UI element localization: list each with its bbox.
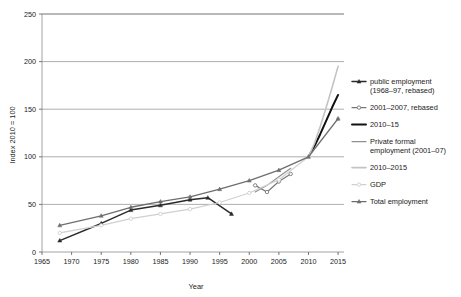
x-tick-label-1990: 1990: [182, 257, 198, 266]
axes-frame: [42, 14, 344, 252]
grid-lines: [42, 14, 344, 204]
legend-item-0[interactable]: public employment(1968–97, rebased): [352, 77, 435, 95]
legend-label-2: 2010–15: [370, 120, 399, 129]
series-1: [253, 172, 292, 193]
x-axis-tick-labels: 1965197019751980198519901995200020052010…: [34, 257, 346, 266]
x-tick-label-2010: 2010: [300, 257, 316, 266]
x-tick-label-1970: 1970: [64, 257, 80, 266]
series-line-4: [308, 66, 338, 156]
y-tick-label-100: 100: [24, 152, 36, 161]
legend-label-6: Total employment: [370, 197, 428, 206]
series-point-5-1: [100, 224, 103, 227]
y-tick-label-50: 50: [28, 200, 36, 209]
series-point-5-3: [159, 212, 162, 215]
legend-label-5: GDP: [370, 180, 386, 189]
series-point-1-3: [289, 172, 292, 175]
y-axis-ticks: [39, 14, 42, 252]
series-point-5-0: [58, 231, 61, 234]
x-tick-label-1975: 1975: [93, 257, 109, 266]
legend-marker-5: [357, 183, 360, 186]
series-point-1-1: [265, 190, 268, 193]
legend-item-1[interactable]: 2001–2007, rebased: [352, 103, 438, 112]
x-tick-label-1965: 1965: [34, 257, 50, 266]
legend-item-2[interactable]: 2010–15: [352, 120, 399, 129]
x-tick-label-1995: 1995: [212, 257, 228, 266]
chart-figure: 050100150200250 196519701975198019851990…: [0, 0, 461, 297]
line-chart: 050100150200250 196519701975198019851990…: [0, 0, 461, 297]
x-axis-ticks: [42, 252, 338, 255]
legend-item-5[interactable]: GDP: [352, 180, 386, 189]
legend-label-3: Private formalemployment (2001–07): [370, 137, 446, 155]
legend: public employment(1968–97, rebased)2001–…: [352, 77, 446, 206]
series-point-5-7: [277, 178, 280, 181]
legend-label-4: 2010–2015: [370, 163, 407, 172]
x-tick-label-2015: 2015: [330, 257, 346, 266]
series-6: [58, 117, 340, 227]
data-series-group: [58, 66, 340, 242]
series-point-5-2: [129, 217, 132, 220]
x-axis-title: Year: [189, 282, 204, 291]
series-line-6: [60, 119, 338, 226]
legend-label-0: public employment(1968–97, rebased): [370, 77, 435, 95]
y-axis-tick-labels: 050100150200250: [24, 10, 36, 257]
y-tick-label-200: 200: [24, 57, 36, 66]
y-axis-title: Index 2010 = 100: [8, 106, 17, 163]
series-4: [308, 66, 338, 156]
x-tick-label-2000: 2000: [241, 257, 257, 266]
legend-item-4[interactable]: 2010–2015: [352, 163, 407, 172]
series-0: [58, 196, 234, 242]
x-tick-label-1980: 1980: [123, 257, 139, 266]
legend-item-6[interactable]: Total employment: [352, 197, 428, 206]
legend-marker-1: [357, 106, 360, 109]
y-tick-label-150: 150: [24, 105, 36, 114]
y-tick-label-0: 0: [32, 248, 36, 257]
x-tick-label-1985: 1985: [152, 257, 168, 266]
series-point-5-6: [248, 191, 251, 194]
series-point-5-5: [218, 201, 221, 204]
series-point-1-0: [253, 184, 256, 187]
legend-label-1: 2001–2007, rebased: [370, 103, 438, 112]
y-tick-label-250: 250: [24, 10, 36, 19]
plot-frame: [42, 14, 344, 252]
series-point-5-4: [188, 207, 191, 210]
x-tick-label-2005: 2005: [271, 257, 287, 266]
legend-item-3[interactable]: Private formalemployment (2001–07): [352, 137, 446, 155]
